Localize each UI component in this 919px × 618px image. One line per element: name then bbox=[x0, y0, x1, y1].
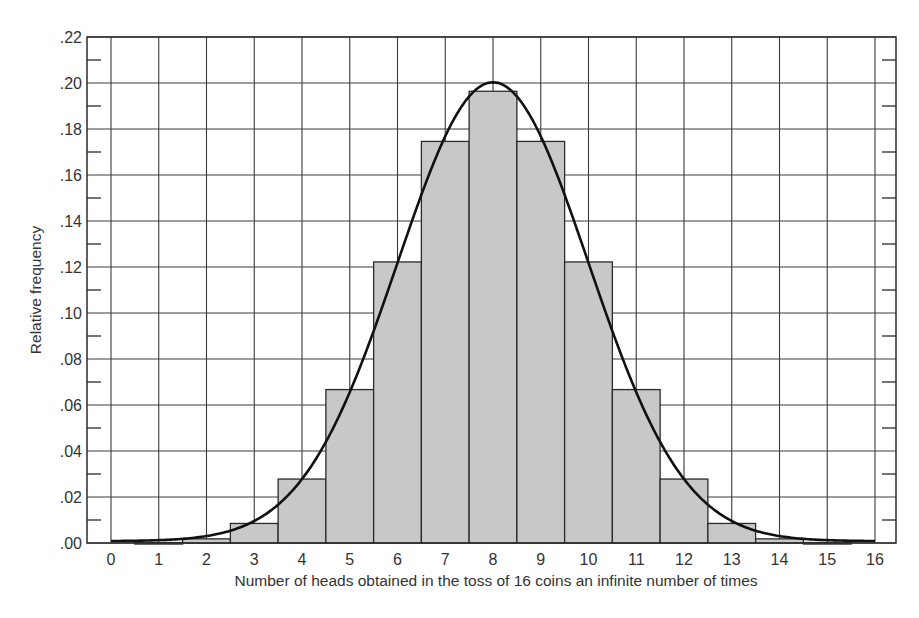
x-tick-label: 16 bbox=[866, 551, 884, 568]
histogram-chart: .00.02.04.06.08.10.12.14.16.18.20.22 012… bbox=[0, 0, 919, 618]
x-tick-label: 15 bbox=[818, 551, 836, 568]
histogram-bars bbox=[135, 91, 851, 544]
y-tick-label: .00 bbox=[60, 535, 82, 552]
x-tick-label: 12 bbox=[675, 551, 693, 568]
histogram-bar-6 bbox=[374, 262, 422, 543]
y-tick-label: .20 bbox=[60, 75, 82, 92]
histogram-bar-5 bbox=[326, 390, 374, 543]
histogram-bar-7 bbox=[421, 141, 469, 543]
y-tick-label: .06 bbox=[60, 397, 82, 414]
x-axis-title: Number of heads obtained in the toss of … bbox=[235, 572, 758, 589]
x-tick-label: 3 bbox=[250, 551, 259, 568]
histogram-bar-10 bbox=[565, 262, 613, 543]
x-tick-label: 0 bbox=[107, 551, 116, 568]
x-tick-label: 11 bbox=[628, 551, 645, 568]
y-tick-label: .12 bbox=[60, 259, 82, 276]
histogram-bar-9 bbox=[517, 141, 565, 543]
x-tick-label: 7 bbox=[441, 551, 450, 568]
y-tick-label: .16 bbox=[60, 167, 82, 184]
y-tick-label: .08 bbox=[60, 351, 82, 368]
histogram-bar-11 bbox=[612, 390, 660, 543]
y-tick-label: .10 bbox=[60, 305, 82, 322]
x-tick-label: 2 bbox=[202, 551, 211, 568]
x-tick-label: 5 bbox=[345, 551, 354, 568]
histogram-bar-4 bbox=[278, 479, 326, 543]
histogram-bar-13 bbox=[708, 523, 756, 543]
x-tick-label: 10 bbox=[580, 551, 598, 568]
histogram-bar-12 bbox=[660, 479, 708, 543]
y-tick-label: .18 bbox=[60, 121, 82, 138]
y-tick-label: .22 bbox=[60, 29, 82, 46]
x-tick-label: 8 bbox=[489, 551, 498, 568]
x-tick-label: 4 bbox=[298, 551, 307, 568]
x-tick-label: 6 bbox=[393, 551, 402, 568]
y-tick-label: .02 bbox=[60, 489, 82, 506]
x-axis-ticks: 012345678910111213141516 bbox=[107, 551, 884, 568]
y-axis-ticks: .00.02.04.06.08.10.12.14.16.18.20.22 bbox=[60, 29, 82, 552]
y-tick-label: .04 bbox=[60, 443, 82, 460]
y-axis-title: Relative frequency bbox=[27, 226, 44, 355]
histogram-bar-8 bbox=[469, 91, 517, 543]
x-tick-label: 1 bbox=[154, 551, 163, 568]
x-tick-label: 13 bbox=[723, 551, 741, 568]
x-tick-label: 14 bbox=[771, 551, 789, 568]
histogram-bar-3 bbox=[230, 523, 278, 543]
x-tick-label: 9 bbox=[536, 551, 545, 568]
y-tick-label: .14 bbox=[60, 213, 82, 230]
